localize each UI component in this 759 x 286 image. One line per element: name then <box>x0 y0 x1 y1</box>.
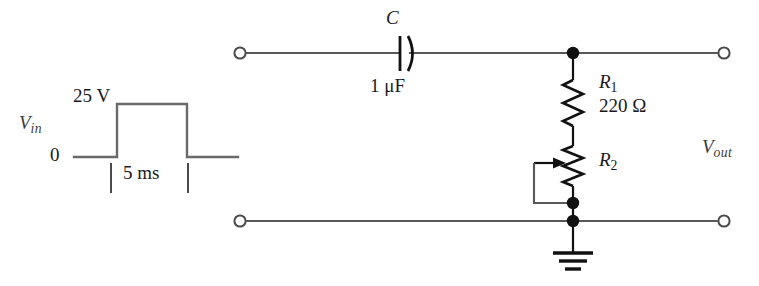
top-junction-node <box>567 47 579 59</box>
circuit-figure: Vin 25 V 0 5 ms C 1 μF R1 220 Ω R2 Vout <box>0 0 759 286</box>
resistor-1-value-label: 220 Ω <box>599 96 646 115</box>
resistor-1-branch <box>563 53 583 146</box>
output-top-terminal[interactable] <box>718 47 729 58</box>
circuit-svg <box>0 0 759 286</box>
resistor-2-designator-label: R2 <box>599 150 617 173</box>
capacitor-value-label: 1 μF <box>370 76 405 95</box>
waveform-low-level-label: 0 <box>50 145 60 164</box>
resistor-2-branch <box>534 146 583 221</box>
vout-label: Vout <box>702 137 732 160</box>
input-top-terminal[interactable] <box>234 47 245 58</box>
resistor-1-designator-label: R1 <box>599 72 617 95</box>
ground-junction-node <box>567 215 579 227</box>
r2-zigzag-icon <box>563 146 583 186</box>
ground-symbol <box>553 221 593 269</box>
output-bottom-terminal[interactable] <box>718 215 729 226</box>
waveform-high-level-label: 25 V <box>73 86 110 105</box>
wiper-junction-node <box>567 197 579 209</box>
pulse-width-label: 5 ms <box>123 163 159 182</box>
vin-label: Vin <box>19 113 42 136</box>
pulse-waveform-trace <box>74 104 238 157</box>
capacitor-designator-label: C <box>386 8 399 27</box>
input-bottom-terminal[interactable] <box>234 215 245 226</box>
r1-zigzag-icon <box>563 80 583 126</box>
